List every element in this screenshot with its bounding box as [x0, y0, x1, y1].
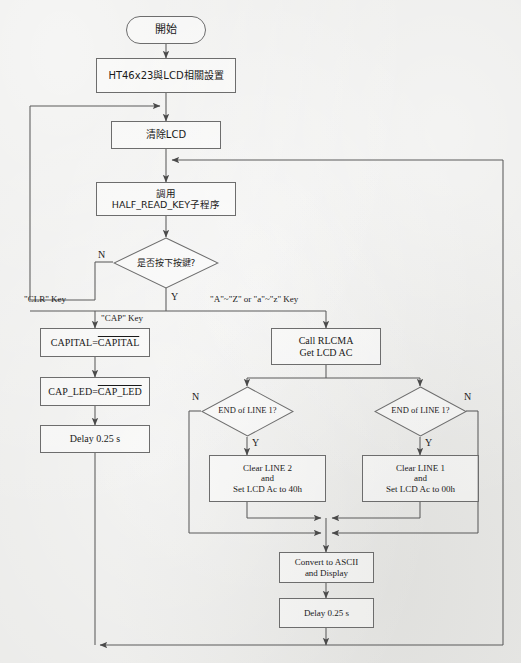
node-cap-led-toggle: CAP_LED=CAP_LED: [40, 377, 150, 406]
node-init-label: HT46x23與LCD相關設置: [105, 70, 226, 82]
node-cap-led-toggle-overline: CAP_LED: [98, 386, 142, 397]
edge-label-cap-key: "CAP" Key: [101, 313, 143, 323]
node-end-line-left-label: END of LINE 1?: [201, 405, 294, 415]
node-end-line-right-label: END of LINE 1?: [374, 405, 467, 415]
node-delay-bottom-label: Delay 0.25 s: [301, 608, 352, 619]
node-capital-toggle-overline: CAPITAL: [98, 337, 139, 348]
node-call-rlcma-line1: Call RLCMA: [296, 335, 357, 347]
edge-label-n-left: N: [192, 391, 199, 402]
node-delay-left-label: Delay 0.25 s: [67, 433, 123, 445]
node-convert-ascii-line2: and Display: [302, 568, 351, 579]
node-call-rlcma-line2: Get LCD AC: [297, 347, 356, 359]
node-capital-toggle: CAPITAL=CAPITAL: [40, 328, 150, 357]
flowchart-canvas: 開始 HT46x23與LCD相關設置 清除LCD 調用 HALF_READ_KE…: [0, 0, 521, 663]
node-start: 開始: [126, 16, 206, 44]
node-key-pressed-label: 是否按下按鍵?: [113, 256, 219, 269]
node-clear-line2-line3: Set LCD Ac to 40h: [230, 484, 305, 495]
edge-label-clr-key: "CLR" Key: [24, 294, 66, 304]
edge-label-yes-key: Y: [171, 291, 178, 302]
node-call-rlcma: Call RLCMA Get LCD AC: [271, 328, 381, 365]
node-clear-line1-line1: Clear LINE 1: [393, 463, 448, 474]
node-call-half-read-key: 調用 HALF_READ_KEY子程序: [96, 182, 236, 216]
node-cap-led-toggle-prefix: CAP_LED=: [48, 386, 98, 397]
edge-label-n-right: N: [464, 391, 471, 402]
node-delay-left: Delay 0.25 s: [40, 425, 150, 453]
node-clear-line2: Clear LINE 2 and Set LCD Ac to 40h: [209, 455, 326, 502]
node-start-label: 開始: [152, 24, 180, 37]
node-init: HT46x23與LCD相關設置: [96, 58, 236, 93]
node-delay-bottom: Delay 0.25 s: [279, 598, 374, 628]
edge-label-no-key: N: [98, 249, 105, 260]
node-call-half-read-key-line2: HALF_READ_KEY子程序: [109, 199, 223, 210]
node-convert-ascii: Convert to ASCII and Display: [279, 552, 374, 583]
node-call-half-read-key-line1: 調用: [153, 188, 179, 199]
edge-label-y-right: Y: [425, 437, 432, 448]
node-clear-lcd: 清除LCD: [111, 121, 221, 149]
node-capital-toggle-prefix: CAPITAL=: [51, 337, 98, 348]
node-clear-line1-line2: and: [411, 473, 430, 484]
node-convert-ascii-line1: Convert to ASCII: [292, 557, 362, 568]
node-clear-lcd-label: 清除LCD: [143, 129, 189, 141]
node-clear-line2-line1: Clear LINE 2: [240, 463, 295, 474]
node-clear-line1-line3: Set LCD Ac to 00h: [383, 484, 458, 495]
node-clear-line1: Clear LINE 1 and Set LCD Ac to 00h: [362, 455, 479, 502]
edge-label-y-left: Y: [252, 437, 259, 448]
edge-label-az-key: "A"~"Z" or "a"~"z" Key: [210, 294, 298, 304]
node-clear-line2-line2: and: [258, 473, 277, 484]
